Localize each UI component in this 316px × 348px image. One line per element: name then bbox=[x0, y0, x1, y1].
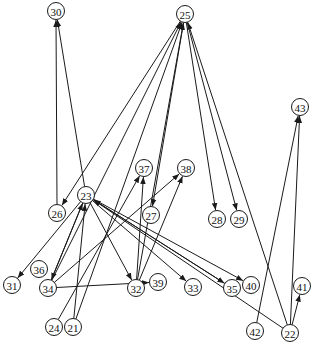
node-label: 39 bbox=[153, 277, 165, 289]
edge-22-to-25 bbox=[188, 23, 287, 325]
node-26: 26 bbox=[49, 205, 66, 222]
node-label: 31 bbox=[7, 280, 18, 292]
node-label: 38 bbox=[181, 163, 193, 175]
node-28: 28 bbox=[209, 211, 226, 228]
node-label: 41 bbox=[297, 281, 308, 293]
node-label: 27 bbox=[146, 210, 158, 222]
node-label: 25 bbox=[180, 9, 192, 21]
node-40: 40 bbox=[243, 277, 260, 294]
node-38: 38 bbox=[178, 160, 195, 177]
node-label: 34 bbox=[43, 283, 55, 295]
node-42: 42 bbox=[247, 323, 264, 340]
node-label: 35 bbox=[227, 283, 239, 295]
node-label: 21 bbox=[68, 322, 79, 334]
node-35: 35 bbox=[224, 280, 241, 297]
node-label: 40 bbox=[246, 280, 258, 292]
node-label: 42 bbox=[250, 326, 261, 338]
node-label: 32 bbox=[131, 283, 142, 295]
node-39: 39 bbox=[150, 274, 167, 291]
edge-24-to-37 bbox=[58, 176, 139, 320]
node-36: 36 bbox=[31, 261, 48, 278]
node-37: 37 bbox=[136, 160, 153, 177]
edge-32-to-38 bbox=[139, 176, 182, 280]
node-label: 24 bbox=[49, 322, 61, 334]
node-label: 22 bbox=[285, 328, 296, 340]
node-label: 29 bbox=[234, 214, 246, 226]
node-23: 23 bbox=[78, 187, 95, 204]
edge-25-to-29 bbox=[187, 22, 237, 210]
node-31: 31 bbox=[4, 277, 21, 294]
node-label: 26 bbox=[52, 208, 64, 220]
node-32: 32 bbox=[128, 280, 145, 297]
node-27: 27 bbox=[143, 207, 160, 224]
edge-23-to-32 bbox=[90, 203, 132, 281]
node-label: 23 bbox=[81, 190, 93, 202]
node-41: 41 bbox=[294, 278, 311, 295]
node-29: 29 bbox=[231, 211, 248, 228]
node-43: 43 bbox=[292, 99, 309, 116]
edge-25-to-26 bbox=[62, 21, 180, 205]
node-30: 30 bbox=[48, 3, 65, 20]
node-label: 43 bbox=[295, 102, 307, 114]
node-24: 24 bbox=[46, 319, 63, 336]
edge-26-to-30 bbox=[56, 20, 57, 205]
node-label: 30 bbox=[51, 6, 63, 18]
edge-23-to-30 bbox=[57, 20, 84, 187]
node-label: 28 bbox=[212, 214, 224, 226]
node-25: 25 bbox=[177, 6, 194, 23]
node-34: 34 bbox=[40, 280, 57, 297]
edge-22-to-23 bbox=[94, 200, 284, 328]
node-label: 36 bbox=[34, 264, 46, 276]
edge-25-to-27 bbox=[153, 22, 184, 206]
node-33: 33 bbox=[185, 279, 202, 296]
node-label: 33 bbox=[188, 282, 200, 294]
node-21: 21 bbox=[65, 319, 82, 336]
node-22: 22 bbox=[282, 325, 299, 342]
directed-graph: 3025433738232627282931363432393335404124… bbox=[0, 0, 316, 348]
edge-22-to-41 bbox=[292, 295, 300, 325]
edge-25-to-28 bbox=[186, 22, 215, 210]
node-label: 37 bbox=[139, 163, 151, 175]
